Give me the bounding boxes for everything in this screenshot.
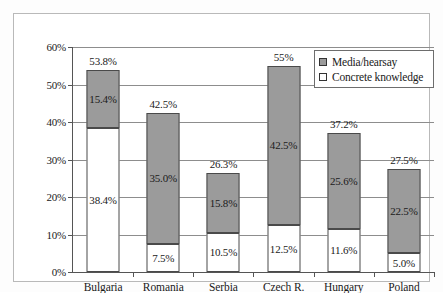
bar-segment-concrete[interactable]: 5.0% bbox=[387, 253, 420, 272]
bar-total-label: 55% bbox=[274, 51, 294, 63]
chart-legend: Media/hearsay Concrete knowledge bbox=[314, 50, 434, 88]
stacked-bar[interactable]: 7.5%35.0% bbox=[147, 113, 180, 272]
y-axis-tick bbox=[68, 272, 73, 273]
x-axis-tick bbox=[133, 272, 134, 277]
x-axis-tick bbox=[434, 272, 435, 277]
bar-segment-label-media: 15.4% bbox=[89, 93, 116, 105]
bar-segment-label-media: 42.5% bbox=[270, 139, 297, 151]
bar-segment-label-media: 15.8% bbox=[210, 197, 237, 209]
y-axis-tick-label: 30% bbox=[46, 154, 66, 166]
bar-segment-media[interactable]: 15.4% bbox=[87, 70, 120, 128]
bar-segment-media[interactable]: 35.0% bbox=[147, 113, 180, 244]
bar-segment-concrete[interactable]: 38.4% bbox=[87, 128, 120, 272]
x-axis-category-label: Serbia bbox=[209, 281, 238, 293]
x-axis-tick bbox=[253, 272, 254, 277]
bar-segment-label-concrete: 10.5% bbox=[210, 246, 237, 258]
legend-swatch-concrete-icon bbox=[319, 73, 327, 81]
y-axis-tick-label: 20% bbox=[46, 191, 66, 203]
bar-total-label: 27.5% bbox=[390, 154, 417, 166]
x-axis-tick bbox=[374, 272, 375, 277]
legend-item-concrete: Concrete knowledge bbox=[319, 69, 429, 84]
bar-slot: 10.5%15.8%26.3%Serbia bbox=[193, 47, 253, 272]
x-axis-category-label: Czech R. bbox=[263, 281, 304, 293]
bar-segment-label-concrete: 38.4% bbox=[89, 194, 116, 206]
x-axis-category-label: Romania bbox=[143, 281, 184, 293]
bar-total-label: 26.3% bbox=[210, 158, 237, 170]
bar-segment-label-media: 35.0% bbox=[150, 172, 177, 184]
bar-total-label: 42.5% bbox=[150, 98, 177, 110]
bar-segment-media[interactable]: 25.6% bbox=[327, 133, 360, 229]
stacked-bar[interactable]: 11.6%25.6% bbox=[327, 133, 360, 273]
bar-segment-label-media: 22.5% bbox=[390, 205, 417, 217]
bar-segment-concrete[interactable]: 10.5% bbox=[207, 233, 240, 272]
y-axis-tick-label: 60% bbox=[46, 41, 66, 53]
x-axis-category-label: Poland bbox=[388, 281, 419, 293]
y-axis-tick-label: 10% bbox=[46, 229, 66, 241]
bar-segment-concrete[interactable]: 7.5% bbox=[147, 244, 180, 272]
y-axis-tick-label: 40% bbox=[46, 116, 66, 128]
legend-label-concrete: Concrete knowledge bbox=[332, 71, 423, 83]
bar-segment-label-media: 25.6% bbox=[330, 175, 357, 187]
y-axis-tick-label: 0% bbox=[52, 266, 66, 278]
stacked-bar[interactable]: 12.5%42.5% bbox=[267, 66, 300, 272]
x-axis-tick bbox=[193, 272, 194, 277]
bar-segment-media[interactable]: 42.5% bbox=[267, 66, 300, 225]
bar-segment-concrete[interactable]: 12.5% bbox=[267, 225, 300, 272]
bar-segment-label-concrete: 7.5% bbox=[152, 252, 174, 264]
x-axis-category-label: Hungary bbox=[324, 281, 364, 293]
legend-swatch-media-icon bbox=[319, 58, 327, 66]
stacked-bar[interactable]: 5.0%22.5% bbox=[387, 169, 420, 272]
x-axis-tick bbox=[314, 272, 315, 277]
stacked-bar[interactable]: 38.4%15.4% bbox=[87, 70, 120, 272]
legend-label-media: Media/hearsay bbox=[332, 56, 397, 68]
bar-total-label: 37.2% bbox=[330, 118, 357, 130]
bar-slot: 12.5%42.5%55%Czech R. bbox=[254, 47, 314, 272]
x-axis-category-label: Bulgaria bbox=[84, 281, 123, 293]
bar-segment-label-concrete: 11.6% bbox=[330, 244, 357, 256]
bar-slot: 7.5%35.0%42.5%Romania bbox=[133, 47, 193, 272]
bar-segment-media[interactable]: 22.5% bbox=[387, 169, 420, 253]
bar-total-label: 53.8% bbox=[89, 55, 116, 67]
legend-item-media: Media/hearsay bbox=[319, 54, 429, 69]
bar-segment-label-concrete: 12.5% bbox=[270, 243, 297, 255]
bar-segment-label-concrete: 5.0% bbox=[393, 257, 415, 269]
bar-segment-concrete[interactable]: 11.6% bbox=[327, 229, 360, 273]
bar-slot: 38.4%15.4%53.8%Bulgaria bbox=[73, 47, 133, 272]
y-axis-tick-label: 50% bbox=[46, 79, 66, 91]
stacked-bar[interactable]: 10.5%15.8% bbox=[207, 173, 240, 272]
chart-frame: 0%10%20%30%40%50%60% 38.4%15.4%53.8%Bulg… bbox=[13, 13, 430, 282]
bar-segment-media[interactable]: 15.8% bbox=[207, 173, 240, 232]
